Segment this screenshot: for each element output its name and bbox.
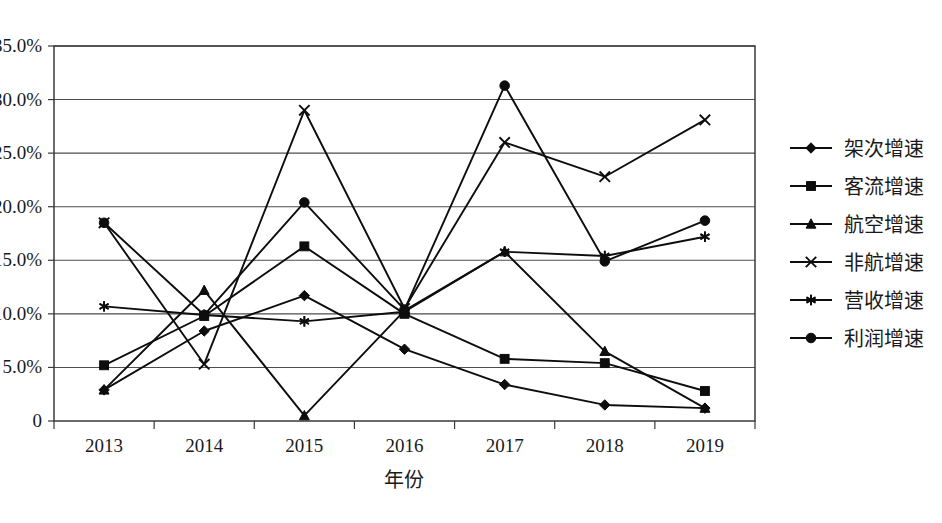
legend-item-label: 利润增速 <box>844 328 924 350</box>
y-tick-label: 25.0% <box>0 142 42 163</box>
data-point-square <box>500 354 509 363</box>
x-axis-title: 年份 <box>384 469 424 491</box>
y-tick-label: 35.0% <box>0 35 42 56</box>
data-point-square <box>600 359 609 368</box>
data-point-square <box>100 361 109 370</box>
x-tick-label: 2015 <box>285 435 323 456</box>
chart-canvas: 05.0%10.0%15.0%20.0%25.0%30.0%35.0% 2013… <box>0 0 942 523</box>
data-point-square <box>807 182 816 191</box>
x-tick-label: 2013 <box>85 435 123 456</box>
data-point-circle <box>300 198 310 208</box>
x-tick-label: 2016 <box>386 435 424 456</box>
line-chart-figure: 05.0%10.0%15.0%20.0%25.0%30.0%35.0% 2013… <box>0 0 942 523</box>
data-point-circle <box>199 310 209 320</box>
y-tick-label: 15.0% <box>0 249 42 270</box>
data-point-square <box>701 387 710 396</box>
legend-item-label: 营收增速 <box>844 290 924 312</box>
data-point-circle <box>806 333 816 343</box>
data-point-circle <box>400 305 410 315</box>
legend-item-label: 客流增速 <box>844 176 924 198</box>
x-tick-label: 2019 <box>686 435 724 456</box>
data-point-square <box>300 242 309 251</box>
y-tick-label: 0 <box>33 410 43 431</box>
legend-item-label: 航空增速 <box>844 214 924 236</box>
x-tick-label: 2017 <box>486 435 524 456</box>
data-point-circle <box>600 257 610 267</box>
y-tick-label: 10.0% <box>0 303 42 324</box>
y-tick-label: 20.0% <box>0 196 42 217</box>
x-tick-label: 2018 <box>586 435 624 456</box>
data-point-circle <box>700 216 710 226</box>
x-tick-label: 2014 <box>185 435 224 456</box>
y-tick-label: 30.0% <box>0 89 42 110</box>
data-point-circle <box>99 218 109 228</box>
y-tick-label: 5.0% <box>2 356 42 377</box>
data-point-circle <box>500 81 510 91</box>
legend-item-label: 架次增速 <box>844 138 924 160</box>
legend-item-label: 非航增速 <box>844 252 924 274</box>
